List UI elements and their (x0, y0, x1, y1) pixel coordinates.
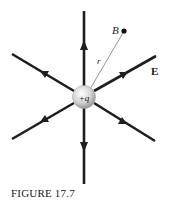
charge-label: +q (79, 93, 90, 103)
point-b-label: B (112, 24, 119, 36)
point-b-dot (121, 28, 126, 33)
arrow-up-icon (80, 40, 88, 50)
figure-caption: FIGURE 17.7 (11, 187, 75, 199)
arrow-down-icon (80, 142, 88, 152)
distance-label: r (97, 56, 101, 66)
electric-field-diagram: +q B r E (0, 0, 170, 203)
field-label: E (151, 65, 158, 77)
